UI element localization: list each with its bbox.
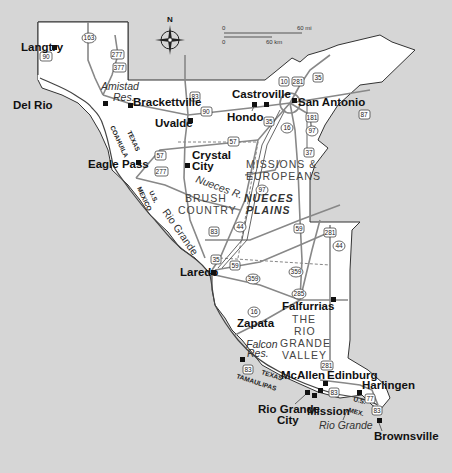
region-brush-2: COUNTRY xyxy=(178,204,237,216)
city-label-rio-grande-city: City xyxy=(277,414,299,426)
city-label-san-antonio: San Antonio xyxy=(298,96,365,108)
region-rgv-2: RIO xyxy=(294,325,316,337)
region-rgv-4: VALLEY xyxy=(282,349,327,361)
city-label-laredo: Laredo xyxy=(180,266,218,278)
svg-text:181: 181 xyxy=(307,114,318,121)
svg-text:285: 285 xyxy=(294,290,305,297)
svg-text:97: 97 xyxy=(308,127,316,134)
city-label-zapata: Zapata xyxy=(237,317,275,329)
svg-text:44: 44 xyxy=(236,223,244,230)
svg-text:10: 10 xyxy=(280,78,288,85)
region-brush-1: BRUSH xyxy=(185,192,227,204)
svg-text:35: 35 xyxy=(314,74,322,81)
svg-text:16: 16 xyxy=(283,124,291,131)
rio-grande-lower-label: Rio Grande xyxy=(319,419,373,431)
svg-text:57: 57 xyxy=(156,152,164,159)
region-missions-2: EUROPEANS xyxy=(246,170,321,182)
svg-text:359: 359 xyxy=(291,268,302,275)
city-label-mcallen: McAllen xyxy=(281,369,325,381)
svg-text:44: 44 xyxy=(335,242,343,249)
svg-text:281: 281 xyxy=(322,362,333,369)
svg-text:163: 163 xyxy=(84,34,95,41)
svg-text:281: 281 xyxy=(325,229,336,236)
svg-text:16: 16 xyxy=(250,308,258,315)
city-label-castroville: Castroville xyxy=(232,88,291,100)
amistad-label-2: Res. xyxy=(113,91,135,103)
city-label-falfurrias: Falfurrias xyxy=(282,300,334,312)
map-canvas: N 0 60 mi 0 60 km 90 163 277 377 83 90 1… xyxy=(0,0,452,473)
falcon-label-2: Res. xyxy=(247,347,269,359)
svg-text:35: 35 xyxy=(212,256,220,263)
region-nueces-1: NUECES xyxy=(244,192,294,204)
svg-text:0: 0 xyxy=(222,25,226,31)
svg-text:83: 83 xyxy=(210,228,218,235)
svg-text:60 km: 60 km xyxy=(266,39,282,45)
svg-text:35: 35 xyxy=(265,118,273,125)
compass-rose: N xyxy=(155,15,185,55)
city-label-brackettville: Brackettville xyxy=(133,96,201,108)
svg-text:359: 359 xyxy=(248,275,259,282)
city-label-brownsville: Brownsville xyxy=(374,430,439,442)
svg-text:87: 87 xyxy=(360,111,368,118)
svg-text:83: 83 xyxy=(330,389,338,396)
svg-text:281: 281 xyxy=(293,78,304,85)
svg-text:377: 377 xyxy=(114,64,125,71)
region-rgv-1: THE xyxy=(292,313,316,325)
city-label-uvalde: Uvalde xyxy=(155,117,193,129)
svg-text:83: 83 xyxy=(244,366,252,373)
region-nueces-2: PLAINS xyxy=(246,204,291,216)
city-label-mission: Mission xyxy=(307,405,350,417)
region-rgv-3: GRANDE xyxy=(280,337,331,349)
svg-text:90: 90 xyxy=(42,53,50,60)
scale-bar: 0 60 mi 0 60 km xyxy=(222,25,312,45)
border-label-mex-lower: MEX. xyxy=(348,406,365,417)
svg-text:60 mi: 60 mi xyxy=(297,25,312,31)
svg-text:37: 37 xyxy=(305,149,313,156)
region-missions-1: MISSIONS & xyxy=(246,158,317,170)
city-label-del-rio: Del Rio xyxy=(13,99,53,111)
city-label-hondo: Hondo xyxy=(227,111,263,123)
city-label-eagle-pass: Eagle Pass xyxy=(88,158,149,170)
city-label-langtry: Langtry xyxy=(21,41,64,53)
svg-text:83: 83 xyxy=(373,407,381,414)
svg-text:59: 59 xyxy=(295,225,303,232)
svg-text:90: 90 xyxy=(202,108,210,115)
city-label-crystal-city: City xyxy=(192,160,214,172)
svg-text:57: 57 xyxy=(229,138,237,145)
texas-region xyxy=(38,22,415,410)
city-label-harlingen: Harlingen xyxy=(362,379,415,391)
svg-text:59: 59 xyxy=(231,262,239,269)
svg-text:277: 277 xyxy=(156,168,167,175)
svg-text:0: 0 xyxy=(222,39,226,45)
svg-text:277: 277 xyxy=(112,51,123,58)
compass-north-label: N xyxy=(167,15,173,24)
svg-text:77: 77 xyxy=(366,395,374,402)
